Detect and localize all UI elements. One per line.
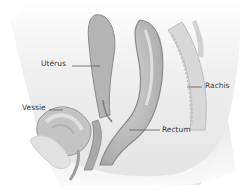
label-vessie: Vessie	[22, 104, 46, 112]
anatomy-diagram: Utérus Vessie Rachis Rectum	[0, 0, 243, 196]
anatomy-illustration	[0, 0, 243, 196]
label-rachis: Rachis	[205, 82, 230, 90]
label-rectum: Rectum	[162, 126, 191, 134]
label-uterus: Utérus	[41, 60, 66, 68]
